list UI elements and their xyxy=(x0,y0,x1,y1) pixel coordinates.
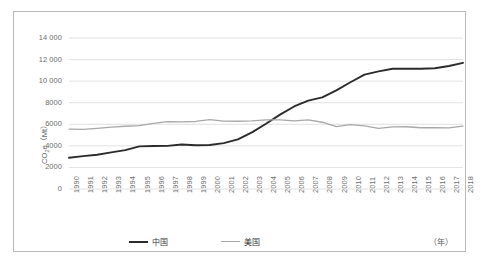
chart-legend: 中国 美国 xyxy=(14,234,467,250)
x-axis-unit-label: （年） xyxy=(429,236,453,247)
legend-label-usa: 美国 xyxy=(244,236,260,247)
chart-plot-area xyxy=(14,12,467,253)
chart-series-lines xyxy=(69,63,463,158)
legend-item-usa[interactable]: 美国 xyxy=(221,236,260,247)
x-axis-tick-label: 2018 xyxy=(466,176,475,193)
chart-figure: CO2e（Mt） 0200040006000800010 00012 00014… xyxy=(13,11,466,252)
legend-swatch-china xyxy=(129,241,148,243)
series-line-china xyxy=(69,63,463,158)
chart-gridlines xyxy=(69,38,463,189)
legend-item-china[interactable]: 中国 xyxy=(129,236,168,247)
legend-label-china: 中国 xyxy=(152,236,168,247)
legend-swatch-usa xyxy=(221,241,240,242)
